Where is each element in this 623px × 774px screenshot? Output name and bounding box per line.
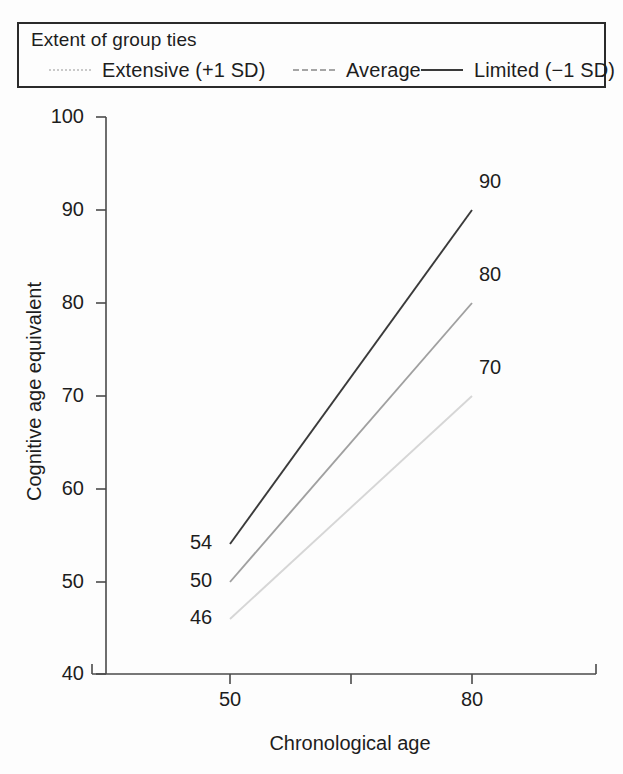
point-label-extensive-end: 70: [479, 356, 501, 379]
series-line-average: [230, 303, 472, 582]
chart-svg: [0, 0, 623, 774]
x-tick-label-80: 80: [442, 688, 502, 711]
figure-container: Extent of group ties Extensive (+1 SD) A…: [0, 0, 623, 774]
series-line-limited: [230, 210, 472, 544]
y-tick-label-90: 90: [32, 198, 84, 221]
point-label-extensive-start: 46: [190, 606, 212, 629]
x-tick-label-50: 50: [200, 688, 260, 711]
series-line-extensive: [230, 396, 472, 619]
point-label-limited-start: 54: [190, 531, 212, 554]
point-label-limited-end: 90: [479, 170, 501, 193]
y-tick-label-40: 40: [32, 662, 84, 685]
y-axis-title: Cognitive age equivalent: [23, 242, 46, 542]
y-tick-label-50: 50: [32, 570, 84, 593]
y-tick-marks: [96, 117, 106, 674]
plot-area: 100 90 80 70 60 50 40 50 80 Cognitive ag…: [0, 0, 623, 774]
y-tick-label-100: 100: [32, 105, 84, 128]
x-axis-title: Chronological age: [160, 732, 540, 755]
point-label-average-start: 50: [190, 569, 212, 592]
point-label-average-end: 80: [479, 263, 501, 286]
